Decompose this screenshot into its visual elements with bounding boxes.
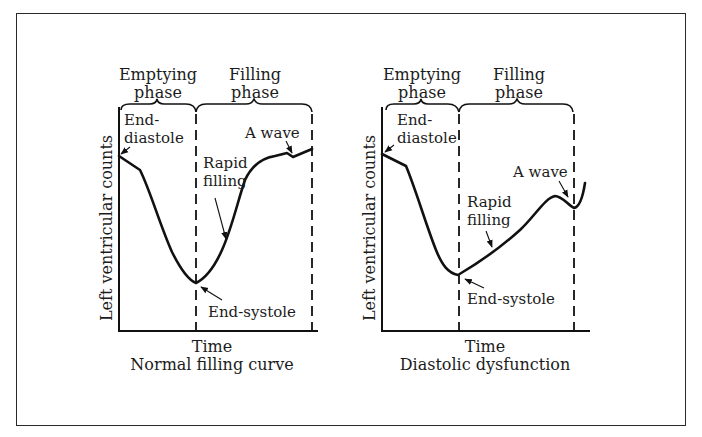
panel-caption: Diastolic dysfunction (400, 355, 571, 374)
rapid-filling-arrow (215, 198, 226, 239)
a-wave-label: A wave (512, 163, 568, 181)
end-diastole-label-line2: diastole (397, 129, 457, 147)
end-systole-label: End-systole (208, 303, 296, 321)
figure-diagram: Emptying phase Filling phase Left ventri… (0, 0, 702, 437)
end-systole-label: End-systole (467, 290, 555, 308)
filling-phase-label-line2: phase (231, 83, 279, 102)
end-diastole-arrow (385, 145, 394, 152)
filling-phase-brace (459, 99, 573, 112)
rapid-filling-label-line1: Rapid (203, 154, 248, 172)
panel-caption: Normal filling curve (130, 355, 293, 374)
y-axis-label: Left ventricular counts (97, 135, 116, 321)
filling-phase-label-line1: Filling (493, 65, 545, 84)
a-wave-label: A wave (244, 124, 300, 142)
end-diastole-label-line1: End- (124, 111, 159, 129)
filling-phase-label-line1: Filling (229, 65, 281, 84)
rapid-filling-label-line1: Rapid (467, 193, 512, 211)
end-diastole-arrow (121, 147, 130, 154)
rapid-filling-label-line2: filling (467, 211, 511, 229)
end-diastole-label-line2: diastole (124, 129, 184, 147)
end-diastole-label-line1: End- (397, 111, 432, 129)
end-systole-arrow (201, 287, 222, 300)
emptying-phase-label-line1: Emptying (383, 65, 461, 84)
a-wave-arrow (286, 141, 292, 153)
rapid-filling-label-line2: filling (203, 172, 247, 190)
y-axis-label: Left ventricular counts (360, 135, 379, 321)
x-axis-label: Time (192, 337, 232, 356)
panel-normal-filling: Emptying phase Filling phase Left ventri… (97, 65, 318, 374)
x-axis-label: Time (465, 337, 505, 356)
panel-diastolic-dysfunction: Emptying phase Filling phase Left ventri… (360, 65, 590, 374)
rapid-filling-arrow (486, 231, 492, 247)
emptying-phase-label-line2: phase (398, 83, 446, 102)
a-wave-arrow (559, 181, 568, 197)
emptying-phase-label-line2: phase (134, 83, 182, 102)
filling-phase-label-line2: phase (495, 83, 543, 102)
end-systole-arrow (465, 279, 484, 288)
emptying-phase-label-line1: Emptying (119, 65, 197, 84)
